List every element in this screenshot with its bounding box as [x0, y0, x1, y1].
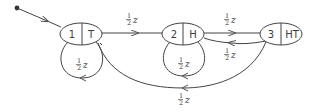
node-2-label: H: [189, 29, 197, 40]
edge-label-1-2-var: z: [132, 15, 138, 25]
state-diagram: 1 2 z 1 2 z 1 2 z 1 2 z 1 2 z: [0, 0, 316, 112]
loop-label-2-var: z: [184, 59, 190, 69]
state-node-3: 3 HT: [260, 23, 302, 45]
edge-label-3-1-var: z: [184, 95, 190, 105]
edge-label-3-1-den: 2: [179, 99, 183, 107]
edge-3-to-1: 1 2 z: [98, 42, 266, 107]
self-loop-1: 1 2 z: [61, 42, 103, 81]
loop-label-1-var: z: [82, 60, 88, 70]
start-dot: [15, 6, 20, 11]
node-3-label: HT: [285, 29, 300, 40]
edge-label-1-2-den: 2: [127, 19, 131, 27]
edge-2-to-3: 1 2 z: [204, 12, 260, 33]
edge-label-3-2-den: 2: [225, 54, 229, 62]
node-3-number: 3: [268, 29, 274, 40]
node-2-number: 2: [171, 29, 177, 40]
self-loop-2: 1 2 z: [163, 42, 204, 79]
node-1-label: T: [87, 29, 95, 40]
state-node-1: 1 T: [60, 23, 102, 45]
edge-label-2-3-den: 2: [225, 19, 229, 27]
loop-label-1-den: 2: [77, 64, 81, 72]
loop-label-2-den: 2: [179, 63, 183, 71]
edge-1-to-2: 1 2 z: [102, 12, 162, 33]
start-edge: [15, 6, 61, 27]
edge-label-2-3-var: z: [230, 15, 236, 25]
state-node-2: 2 H: [162, 23, 204, 45]
edge-label-3-2-var: z: [230, 50, 236, 60]
node-1-number: 1: [69, 29, 75, 40]
